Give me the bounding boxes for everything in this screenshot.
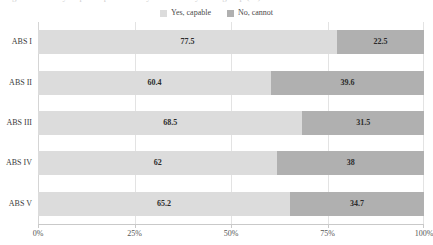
bar-segment-no[interactable]: 34.7 (290, 192, 424, 216)
bar-segment-no[interactable]: 22.5 (337, 30, 424, 54)
x-tick-label-2: 25% (127, 229, 142, 238)
y-axis-label-1: ABS I (12, 30, 32, 54)
bar-value-label: 22.5 (374, 38, 388, 46)
x-tick-label-1: 0% (33, 229, 44, 238)
bar-segment-yes[interactable]: 62 (38, 151, 277, 175)
bar-row-5: 65.234.7 (38, 192, 424, 216)
bar-row-2: 60.439.6 (38, 71, 424, 95)
chart-title-text: Figure 3. Ability to participate in dail… (4, 0, 261, 2)
bar-value-label: 34.7 (350, 200, 364, 208)
x-tick-mark-100 (423, 225, 424, 228)
bar-row-1: 77.522.5 (38, 30, 424, 54)
chart-title-remnant: Figure 3. Ability to participate in dail… (0, 0, 433, 6)
bar-value-label: 68.5 (163, 119, 177, 127)
bar-segment-yes[interactable]: 60.4 (38, 71, 271, 95)
bar-value-label: 31.5 (356, 119, 370, 127)
bar-row-3: 68.531.5 (38, 111, 424, 135)
bar-segment-yes[interactable]: 68.5 (38, 111, 302, 135)
x-tick-label-3: 50% (224, 229, 239, 238)
bar-value-label: 65.2 (157, 200, 171, 208)
plot-area: 77.522.560.439.668.531.5623865.234.7 (38, 22, 424, 224)
bar-segment-no[interactable]: 31.5 (302, 111, 424, 135)
x-tick-label-5: 100% (415, 229, 433, 238)
x-axis-ticks: 0%25%50%75%100% (38, 225, 424, 245)
legend-item-no[interactable]: No, cannot (227, 9, 273, 17)
bar-rows: 77.522.560.439.668.531.5623865.234.7 (38, 22, 424, 224)
bar-segment-yes[interactable]: 77.5 (38, 30, 337, 54)
bar-value-label: 60.4 (148, 79, 162, 87)
x-tick-mark-50 (231, 225, 232, 228)
bar-segment-no[interactable]: 39.6 (271, 71, 424, 95)
bar-row-4: 6238 (38, 151, 424, 175)
y-axis-label-4: ABS IV (6, 151, 32, 175)
bar-value-label: 77.5 (181, 38, 195, 46)
legend-label: Yes, capable (171, 9, 211, 17)
legend-swatch-square (227, 10, 234, 17)
y-axis-label-2: ABS II (9, 71, 32, 95)
x-tick-label-4: 75% (320, 229, 335, 238)
chart-legend: Yes, capableNo, cannot (0, 7, 433, 19)
bar-value-label: 62 (154, 159, 162, 167)
y-axis-label-5: ABS V (9, 192, 32, 216)
y-axis-label-3: ABS III (6, 111, 32, 135)
bar-value-label: 38 (347, 159, 355, 167)
x-tick-mark-25 (135, 225, 136, 228)
legend-swatch-square (160, 10, 167, 17)
legend-label: No, cannot (238, 9, 273, 17)
bar-segment-no[interactable]: 38 (277, 151, 424, 175)
x-tick-mark-75 (328, 225, 329, 228)
y-axis-labels: ABS IABS IIABS IIIABS IVABS V (0, 22, 36, 224)
bar-value-label: 39.6 (341, 79, 355, 87)
chart-container: Figure 3. Ability to participate in dail… (0, 0, 433, 245)
bar-segment-yes[interactable]: 65.2 (38, 192, 290, 216)
x-tick-mark-0 (38, 225, 39, 228)
legend-item-yes[interactable]: Yes, capable (160, 9, 211, 17)
